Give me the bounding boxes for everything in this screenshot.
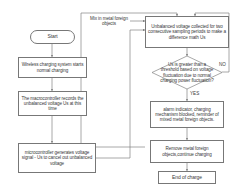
node-start[interactable]: Start [30, 30, 75, 44]
node-decision-label: Us is greater than a threshold based on … [160, 62, 215, 82]
node-start-label: Start [31, 34, 74, 40]
node-normal-charging-label: Wireless charging system starts normal c… [19, 62, 86, 72]
node-end-label: End of charge [159, 175, 215, 181]
node-collect-voltage-label: Unbalanced voltage collected for two con… [146, 24, 228, 39]
node-remove-objects[interactable]: Remove metal foreign objects,continue ch… [150, 140, 224, 163]
edge-generate-to-collect [96, 30, 145, 158]
flowchart-canvas: Start Wireless charging system starts no… [0, 0, 235, 190]
edge-label-yes-text: YES [190, 91, 199, 96]
node-decision[interactable]: Us is greater than a threshold based on … [152, 56, 222, 89]
node-generate-signal[interactable]: microcontroller generates voltage signal… [18, 143, 96, 173]
edge-label-yes: YES [190, 91, 199, 96]
node-record-voltage[interactable]: The macrocontroller records the unbalanc… [18, 91, 87, 116]
node-end[interactable]: End of charge [158, 171, 216, 184]
node-alarm[interactable]: alarm indicator, charging mechanism bloc… [150, 101, 224, 128]
node-alarm-label: alarm indicator, charging mechanism bloc… [151, 107, 223, 122]
edge-label-no-text: NO [219, 62, 226, 67]
node-generate-signal-label: microcontroller generates voltage signal… [19, 150, 95, 165]
node-remove-objects-label: Remove metal foreign objects,continue ch… [151, 146, 223, 156]
node-collect-voltage[interactable]: Unbalanced voltage collected for two con… [145, 16, 229, 48]
node-normal-charging[interactable]: Wireless charging system starts normal c… [18, 57, 87, 78]
edge-label-no: NO [219, 62, 226, 67]
node-record-voltage-label: The macrocontroller records the unbalanc… [19, 96, 86, 111]
node-mix-objects: Mix in metal foreign objects [88, 14, 130, 28]
node-decision-label-wrap: Us is greater than a threshold based on … [152, 56, 222, 89]
node-mix-objects-label: Mix in metal foreign objects [88, 16, 130, 26]
